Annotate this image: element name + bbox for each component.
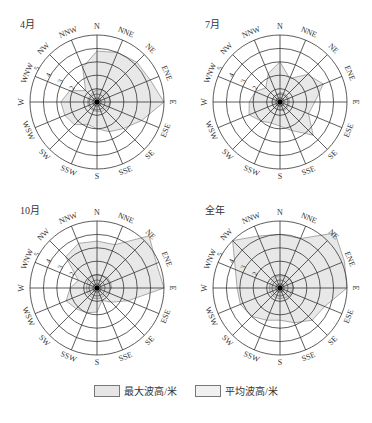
direction-label: E (168, 286, 177, 291)
direction-label: W (200, 98, 209, 106)
direction-label: N (277, 208, 283, 217)
rose-panel-3: 全年NNNENEENEEESESESSESSSWSWWSWWWNWNWNNW23… (200, 204, 360, 367)
direction-label: WSW (20, 120, 36, 142)
direction-label: W (17, 98, 26, 106)
direction-label: SSE (117, 350, 133, 364)
center-dot (95, 100, 100, 105)
wave-roses: 4月NNNENEENEEESESESSESSSWSWWSWWWNWNWNNW23… (0, 0, 372, 380)
direction-label: NNW (240, 210, 262, 226)
direction-label: NNW (57, 210, 79, 226)
direction-label: NW (36, 40, 52, 56)
direction-label: NE (144, 42, 158, 56)
direction-label: NW (219, 40, 235, 56)
direction-label: SSE (300, 350, 316, 364)
center-dot (95, 286, 100, 291)
direction-label: NNE (300, 25, 319, 40)
direction-label: ESE (342, 122, 356, 139)
rose-panel-1: 7月NNNENEENEEESESESSESSSWSWWSWWWNWNWNNW23… (200, 19, 360, 181)
direction-label: ESE (342, 308, 356, 325)
direction-label: WNW (19, 247, 35, 270)
rose-panel-2: 10月NNNENEENEEESESESSESSSWSWWSWWWNWNWNNW2… (17, 205, 177, 367)
direction-label: SSE (300, 164, 316, 178)
legend-item-max: 最大波高/米 (94, 383, 177, 398)
direction-label: WSW (203, 120, 219, 142)
legend-item-avg: 平均波高/米 (195, 383, 278, 398)
direction-label: WNW (19, 61, 35, 84)
direction-label: W (200, 284, 209, 292)
direction-label: WSW (20, 306, 36, 328)
direction-label: NE (327, 42, 341, 56)
direction-label: ENE (160, 250, 174, 268)
direction-label: NW (219, 226, 235, 242)
direction-label: NNW (240, 24, 262, 40)
direction-label: SE (143, 148, 156, 161)
center-dot (278, 100, 283, 105)
direction-label: S (278, 358, 282, 367)
direction-label: E (351, 100, 360, 105)
direction-label: E (351, 286, 360, 291)
rose-panel-0: 4月NNNENEENEEESESESSESSSWSWWSWWWNWNWNNW23… (17, 19, 177, 181)
direction-label: ESE (159, 122, 173, 139)
direction-label: SSE (117, 164, 133, 178)
legend-label-max: 最大波高/米 (124, 383, 177, 398)
direction-label: NNE (300, 211, 319, 226)
direction-label: NNW (57, 24, 79, 40)
direction-label: ENE (160, 64, 174, 82)
panel-title: 7月 (205, 19, 220, 30)
panel-title: 10月 (20, 205, 40, 216)
direction-label: NW (36, 226, 52, 242)
direction-label: WNW (202, 61, 218, 84)
direction-label: SE (326, 334, 339, 347)
legend: 最大波高/米 平均波高/米 (0, 383, 372, 398)
direction-label: ENE (343, 64, 357, 82)
legend-label-avg: 平均波高/米 (225, 383, 278, 398)
direction-label: ESE (159, 308, 173, 325)
direction-label: SE (326, 148, 339, 161)
radial-tick-label: 3 (56, 264, 65, 271)
direction-label: N (277, 22, 283, 31)
direction-label: SE (143, 334, 156, 347)
radial-tick-label: 3 (56, 78, 65, 85)
panel-title: 全年 (205, 204, 225, 216)
direction-label: S (278, 172, 282, 181)
direction-label: NNE (117, 25, 136, 40)
direction-label: S (95, 358, 99, 367)
direction-label: N (94, 208, 100, 217)
direction-label: WSW (203, 306, 219, 328)
center-dot (278, 286, 283, 291)
legend-swatch-avg (195, 385, 221, 397)
legend-swatch-max (94, 385, 120, 397)
direction-label: N (94, 22, 100, 31)
direction-label: S (95, 172, 99, 181)
direction-label: E (168, 100, 177, 105)
direction-label: W (17, 284, 26, 292)
panel-title: 4月 (20, 19, 35, 30)
direction-label: WNW (202, 247, 218, 270)
direction-label: NNE (117, 211, 136, 226)
radial-tick-label: 3 (239, 78, 248, 85)
